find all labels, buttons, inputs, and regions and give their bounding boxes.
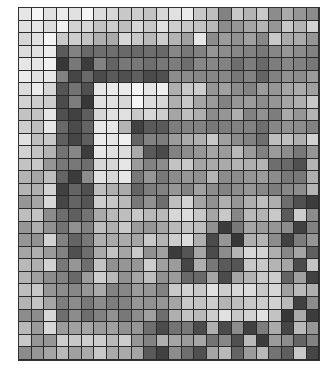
grid-cell xyxy=(219,184,232,197)
grid-cell xyxy=(157,297,170,310)
grid-cell xyxy=(32,134,45,147)
grid-cell xyxy=(107,322,120,335)
grid-cell xyxy=(307,46,320,59)
grid-cell xyxy=(307,209,320,222)
grid-cell xyxy=(132,310,145,323)
grid-cell xyxy=(194,259,207,272)
grid-cell xyxy=(57,196,70,209)
grid-cell xyxy=(44,159,57,172)
grid-cell xyxy=(169,33,182,46)
grid-cell xyxy=(232,58,245,71)
grid-cell xyxy=(44,196,57,209)
grid-cell xyxy=(44,71,57,84)
grid-cell xyxy=(32,171,45,184)
grid-cell xyxy=(32,284,45,297)
grid-cell xyxy=(82,322,95,335)
grid-cell xyxy=(19,222,32,235)
grid-cell xyxy=(132,196,145,209)
grid-cell xyxy=(57,71,70,84)
grid-cell xyxy=(69,134,82,147)
grid-cell xyxy=(269,171,282,184)
grid-cell xyxy=(282,83,295,96)
grid-cell xyxy=(132,335,145,348)
grid-cell xyxy=(69,58,82,71)
grid-cell xyxy=(69,96,82,109)
grid-cell xyxy=(107,8,120,21)
grid-cell xyxy=(282,272,295,285)
grid-cell xyxy=(219,8,232,21)
grid-cell xyxy=(257,184,270,197)
grid-cell xyxy=(69,21,82,34)
grid-cell xyxy=(182,234,195,247)
grid-cell xyxy=(19,196,32,209)
grid-cell xyxy=(57,58,70,71)
grid-cell xyxy=(219,71,232,84)
grid-cell xyxy=(244,8,257,21)
grid-cell xyxy=(219,335,232,348)
grid-cell xyxy=(169,297,182,310)
grid-cell xyxy=(32,109,45,122)
grid-cell xyxy=(232,46,245,59)
grid-cell xyxy=(44,310,57,323)
grid-cell xyxy=(32,310,45,323)
grid-cell xyxy=(32,297,45,310)
grid-cell xyxy=(107,259,120,272)
grid-cell xyxy=(244,21,257,34)
grid-cell xyxy=(94,46,107,59)
grid-cell xyxy=(32,8,45,21)
grid-cell xyxy=(294,8,307,21)
grid-cell xyxy=(294,310,307,323)
grid-cell xyxy=(94,134,107,147)
grid-cell xyxy=(219,222,232,235)
grid-cell xyxy=(119,171,132,184)
grid-cell xyxy=(157,234,170,247)
grid-cell xyxy=(119,347,132,360)
grid-cell xyxy=(107,96,120,109)
grid-cell xyxy=(207,21,220,34)
grid-cell xyxy=(107,159,120,172)
grid-cell xyxy=(94,259,107,272)
grid-cell xyxy=(132,58,145,71)
grid-cell xyxy=(107,234,120,247)
grid-cell xyxy=(294,121,307,134)
grid-cell xyxy=(169,71,182,84)
grid-cell xyxy=(82,96,95,109)
grid-cell xyxy=(282,209,295,222)
grid-cell xyxy=(182,335,195,348)
grid-cell xyxy=(94,284,107,297)
grid-cell xyxy=(219,234,232,247)
grid-cell xyxy=(294,83,307,96)
grid-cell xyxy=(119,234,132,247)
grid-cell xyxy=(232,109,245,122)
grid-cell xyxy=(169,8,182,21)
grid-cell xyxy=(257,71,270,84)
grid-cell xyxy=(119,146,132,159)
grid-cell xyxy=(169,21,182,34)
grid-cell xyxy=(282,96,295,109)
grid-cell xyxy=(44,297,57,310)
grid-cell xyxy=(19,159,32,172)
grid-cell xyxy=(282,184,295,197)
grid-cell xyxy=(244,71,257,84)
grid-cell xyxy=(132,284,145,297)
grid-cell xyxy=(282,335,295,348)
grid-cell xyxy=(269,247,282,260)
grid-cell xyxy=(294,222,307,235)
grid-cell xyxy=(207,58,220,71)
grid-cell xyxy=(132,134,145,147)
grid-cell xyxy=(32,121,45,134)
grid-cell xyxy=(182,347,195,360)
grid-cell xyxy=(257,284,270,297)
grid-cell xyxy=(32,33,45,46)
grid-cell xyxy=(119,71,132,84)
grid-cell xyxy=(194,109,207,122)
grid-cell xyxy=(69,33,82,46)
grid-cell xyxy=(144,33,157,46)
grid-cell xyxy=(57,209,70,222)
grid-cell xyxy=(132,109,145,122)
grid-cell xyxy=(107,71,120,84)
grid-cell xyxy=(269,33,282,46)
grid-cell xyxy=(119,222,132,235)
grid-cell xyxy=(169,96,182,109)
grid-cell xyxy=(219,196,232,209)
